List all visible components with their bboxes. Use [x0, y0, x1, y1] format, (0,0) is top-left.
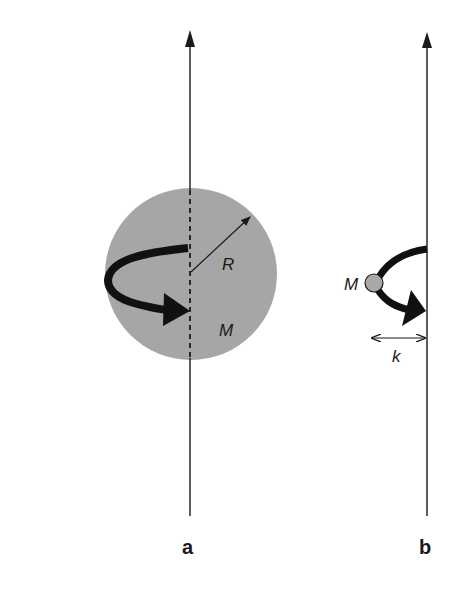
- axis-arrowhead-b-icon: [422, 32, 432, 48]
- axis-arrowhead-a-icon: [185, 30, 195, 47]
- rotation-arrow-b-upper: [379, 249, 427, 277]
- panel-label-b: b: [419, 536, 431, 558]
- point-mass: [365, 274, 383, 292]
- panel-a: R M a: [105, 30, 277, 558]
- solid-sphere: [105, 188, 277, 360]
- panel-b: M k b: [344, 32, 432, 558]
- distance-label: k: [392, 347, 402, 366]
- rotation-arrow-b-lower: [378, 290, 410, 310]
- mass-label-b: M: [344, 275, 359, 294]
- panel-label-a: a: [182, 536, 194, 558]
- radius-label: R: [222, 255, 234, 274]
- rotational-inertia-diagram: R M a M k b: [0, 0, 456, 600]
- mass-label-a: M: [219, 321, 234, 340]
